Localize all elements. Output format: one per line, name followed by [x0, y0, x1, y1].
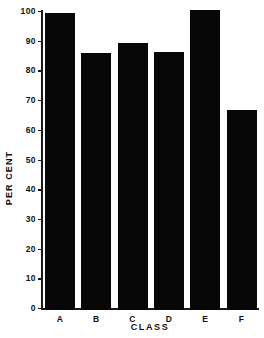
y-tick-label: 80	[26, 65, 36, 75]
y-tick-mark	[38, 278, 42, 279]
y-tick-mark	[38, 308, 42, 309]
y-tick-mark	[38, 189, 42, 190]
y-tick-mark	[38, 70, 42, 71]
bar-C	[118, 43, 148, 310]
y-tick-mark	[38, 219, 42, 220]
y-tick-label: 0	[31, 303, 36, 313]
bar-chart-figure: PER CENT 0102030405060708090100 ABCDEF C…	[0, 0, 264, 338]
bar-B	[81, 53, 111, 310]
y-tick-label: 40	[26, 184, 36, 194]
y-tick-mark	[38, 100, 42, 101]
y-tick-label: 10	[26, 273, 36, 283]
bar-F	[227, 110, 257, 310]
bar-D	[154, 52, 184, 310]
y-tick-label: 30	[26, 214, 36, 224]
y-tick-label: 20	[26, 244, 36, 254]
y-tick-mark	[38, 41, 42, 42]
y-tick-mark	[38, 249, 42, 250]
bar-A	[45, 13, 75, 310]
x-axis-title: CLASS	[41, 322, 259, 332]
y-tick-label: 70	[26, 95, 36, 105]
y-tick-mark	[38, 11, 42, 12]
y-tick-mark	[38, 130, 42, 131]
y-tick-label: 50	[26, 155, 36, 165]
plot-area: 0102030405060708090100 ABCDEF	[41, 8, 259, 310]
y-tick-label: 100	[21, 6, 36, 16]
y-tick-label: 60	[26, 125, 36, 135]
y-tick-mark	[38, 160, 42, 161]
y-axis-title: PER CENT	[4, 138, 14, 218]
bar-E	[190, 10, 220, 310]
y-tick-label: 90	[26, 36, 36, 46]
